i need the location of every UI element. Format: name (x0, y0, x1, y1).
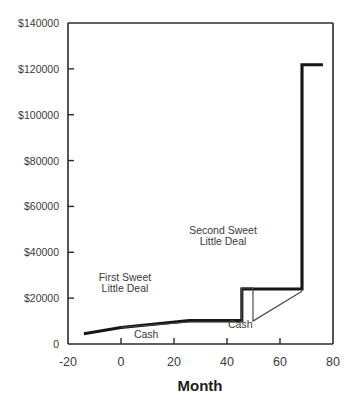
x-axis-tick-label: 80 (326, 355, 340, 369)
financial-line-chart: 0$20000$40000$60000$80000$100000$120000$… (0, 0, 360, 406)
chart-container: 0$20000$40000$60000$80000$100000$120000$… (0, 0, 360, 406)
axis-frame (68, 23, 333, 344)
x-axis-tick-label: 20 (167, 355, 181, 369)
x-axis-tick-label: 0 (118, 355, 125, 369)
x-axis-tick-label: 60 (273, 355, 287, 369)
annotation-deal-label: First Sweet (99, 271, 152, 283)
y-axis-ticks (68, 69, 74, 298)
y-axis-tick-labels: 0$20000$40000$60000$80000$100000$120000$… (18, 17, 59, 350)
plot-axes (68, 23, 333, 344)
annotation-cash-label: Cash (134, 328, 159, 340)
y-axis-tick-label: $120000 (18, 63, 59, 75)
x-axis-tick-label: -20 (59, 355, 77, 369)
y-axis-tick-label: 0 (53, 338, 59, 350)
x-axis-tick-label: 40 (220, 355, 234, 369)
annotation-deal-label: Little Deal (200, 235, 247, 247)
annotation-deal-label: Second Sweet (189, 224, 257, 236)
y-axis-tick-label: $100000 (18, 109, 59, 121)
y-axis-tick-label: $20000 (24, 292, 59, 304)
y-axis-tick-label: $80000 (24, 155, 59, 167)
y-axis-tick-label: $40000 (24, 246, 59, 258)
x-axis-tick-labels: -20020406080 (59, 355, 340, 369)
y-axis-tick-label: $60000 (24, 200, 59, 212)
annotation-deal-label: Little Deal (102, 282, 149, 294)
annotation-cash-label: Cash (228, 318, 253, 330)
y-axis-tick-label: $140000 (18, 17, 59, 29)
x-axis-title: Month (178, 377, 223, 394)
